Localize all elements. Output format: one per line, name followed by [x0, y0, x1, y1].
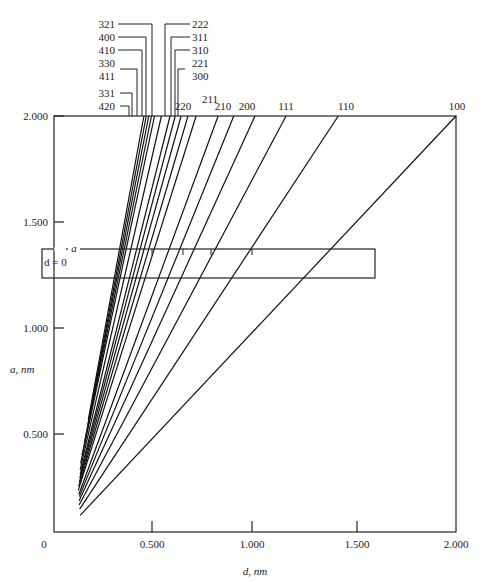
series-lines: [78, 116, 456, 515]
x-axis-label: d, nm: [243, 565, 268, 577]
x-tick-label: 1.000: [240, 538, 265, 550]
y-tick-labels: 2.000 1.500 1.000 0.500: [23, 110, 48, 440]
ruler-overlay: a d = 0: [42, 242, 375, 278]
series-label: 330: [99, 57, 116, 69]
x-tick-label: 0.500: [140, 538, 165, 550]
x-tick-label: 2.000: [444, 538, 469, 550]
series-label: 200: [239, 100, 256, 112]
y-axis: [54, 116, 64, 434]
y-tick-label: 0.500: [23, 428, 48, 440]
x-tick-label: 1.500: [345, 538, 370, 550]
x-axis: [152, 521, 357, 532]
y-tick-label: 1.000: [23, 322, 48, 334]
series-label: 400: [99, 31, 116, 43]
top-labels: 321 400 410 330 411 331 420 222 311 310 …: [99, 18, 466, 112]
series-line: [80, 116, 170, 474]
series-label: 300: [192, 70, 209, 82]
series-label: 220: [175, 100, 192, 112]
series-label: 111: [278, 100, 294, 112]
series-label: 210: [215, 100, 232, 112]
ruler-origin-label: d = 0: [44, 256, 67, 268]
series-label: 420: [99, 100, 116, 112]
y-axis-label: a, nm: [10, 363, 35, 375]
series-label: 411: [99, 70, 115, 82]
series-label: 100: [449, 100, 466, 112]
series-label: 110: [338, 100, 355, 112]
series-label: 310: [192, 44, 209, 56]
series-label: 410: [99, 44, 116, 56]
series-label: 331: [99, 87, 116, 99]
series-label: 221: [192, 57, 209, 69]
x-tick-label: 0: [41, 538, 47, 550]
ruler-box: [42, 249, 375, 278]
y-tick-label: 2.000: [23, 110, 48, 122]
series-line: [80, 116, 339, 509]
series-line: [79, 116, 233, 497]
series-line: [80, 116, 161, 470]
series-line: [79, 116, 181, 482]
series-label: 311: [192, 31, 208, 43]
series-label: 321: [99, 18, 116, 30]
chart: 2.000 1.500 1.000 0.500 a, nm 0 0.500 1.…: [0, 0, 481, 582]
plot-frame: [54, 116, 456, 532]
y-tick-label: 1.500: [23, 216, 48, 228]
series-line: [79, 116, 255, 501]
x-tick-labels: 0 0.500 1.000 1.500 2.000: [41, 538, 469, 550]
series-label: 222: [192, 18, 209, 30]
ruler-label: a: [71, 242, 77, 254]
series-line: [88, 116, 146, 424]
